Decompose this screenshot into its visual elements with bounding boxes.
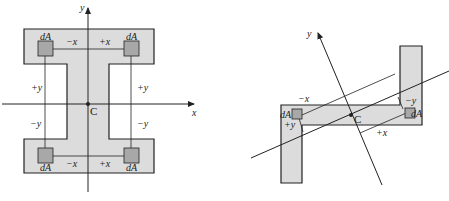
left-neg-y-label: −y (30, 118, 42, 129)
area-element-bottom-left (38, 148, 53, 163)
centroid-dot (349, 113, 353, 117)
pos-x-label: +x (376, 127, 388, 138)
top-pos-x-label: +x (99, 36, 111, 47)
i-section-figure: y x C dA dA dA dA −x +x −x +x +y +y −y −… (2, 2, 197, 192)
da-label: dA (40, 31, 52, 42)
neg-x-label: −x (298, 93, 310, 104)
da-label: dA (40, 162, 52, 173)
area-element-top-right (124, 41, 139, 56)
da-label: dA (411, 108, 423, 119)
centroid-label: C (90, 105, 97, 117)
area-element-left (292, 109, 302, 119)
diagram-canvas: y x C dA dA dA dA −x +x −x +x +y +y −y −… (0, 0, 449, 201)
pos-y-label: +y (284, 119, 296, 130)
centroid-label: C (354, 113, 361, 125)
bottom-neg-x-label: −x (66, 158, 78, 169)
z-section-figure: y C dA dA −x +x +y −y (251, 28, 449, 185)
y-axis-label: y (306, 28, 312, 39)
right-pos-y-label: +y (137, 82, 149, 93)
neg-y-label: −y (405, 95, 417, 106)
da-label: dA (126, 162, 138, 173)
area-element-bottom-right (124, 148, 139, 163)
left-pos-y-label: +y (31, 82, 43, 93)
bottom-pos-x-label: +x (99, 158, 111, 169)
right-neg-y-label: −y (137, 118, 149, 129)
top-neg-x-label: −x (66, 36, 78, 47)
area-element-top-left (38, 41, 53, 56)
y-axis-label: y (79, 2, 85, 13)
da-label: dA (126, 31, 138, 42)
x-axis-label: x (191, 107, 197, 118)
